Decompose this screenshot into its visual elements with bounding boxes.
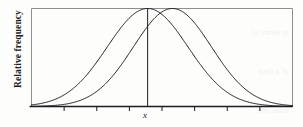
curve-narrow-curve: [32, 9, 293, 107]
plot-area: [0, 0, 303, 127]
x-axis-label: x: [143, 110, 147, 120]
curve-wide-curve: [32, 9, 293, 107]
plot-frame: [32, 9, 293, 107]
relative-frequency-figure: in terms of of a data from one the sampl…: [0, 0, 303, 127]
